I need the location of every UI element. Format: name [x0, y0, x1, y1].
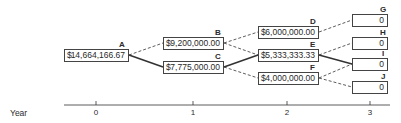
node-a: $ 14,664,166.67 — [64, 49, 129, 62]
node-label-j: J — [381, 72, 385, 81]
tick-label-3: 3 — [365, 108, 375, 117]
node-label-a: A — [119, 40, 125, 49]
node-value: 9,200,000.00 — [170, 38, 220, 49]
tick-label-1: 1 — [188, 108, 198, 117]
node-label-d: D — [310, 17, 316, 26]
edge-f-j — [319, 78, 352, 87]
node-label-i: I — [382, 49, 384, 58]
node-value: 0 — [379, 15, 384, 26]
node-value: 4,000,000.00 — [265, 73, 315, 84]
edge-a-b — [129, 43, 163, 55]
node-label-b: B — [215, 28, 221, 37]
node-label-e: E — [310, 40, 315, 49]
edge-e-i — [319, 55, 352, 64]
edge-f-i — [319, 64, 352, 78]
edge-a-c — [129, 55, 163, 67]
node-e: $ 5,333,333.33 — [258, 49, 319, 62]
node-value: 7,775,000.00 — [170, 62, 220, 73]
node-value: 6,000,000.00 — [265, 27, 315, 38]
tick-label-2: 2 — [282, 108, 292, 117]
edge-c-f — [224, 67, 258, 78]
node-value: 0 — [379, 38, 384, 49]
node-value: 14,664,166.67 — [71, 50, 125, 61]
edge-c-e — [224, 55, 258, 67]
node-c: $ 7,775,000.00 — [163, 61, 224, 74]
node-label-g: G — [380, 5, 386, 14]
node-i: 0 — [352, 58, 388, 71]
node-value: 5,333,333.33 — [265, 50, 315, 61]
edge-b-e — [224, 43, 258, 55]
node-g: 0 — [352, 14, 388, 27]
edge-b-d — [224, 32, 258, 43]
axis-title: Year — [10, 108, 27, 118]
node-label-c: C — [215, 52, 221, 61]
node-label-h: H — [380, 28, 386, 37]
node-label-f: F — [310, 63, 315, 72]
node-value: 0 — [379, 82, 384, 93]
node-f: $ 4,000,000.00 — [258, 72, 319, 85]
node-value: 0 — [379, 59, 384, 70]
tick-label-0: 0 — [91, 108, 101, 117]
edge-d-g — [319, 20, 352, 32]
edge-e-h — [319, 43, 352, 55]
node-d: $ 6,000,000.00 — [258, 26, 319, 39]
node-j: 0 — [352, 81, 388, 94]
node-b: $ 9,200,000.00 — [163, 37, 224, 50]
